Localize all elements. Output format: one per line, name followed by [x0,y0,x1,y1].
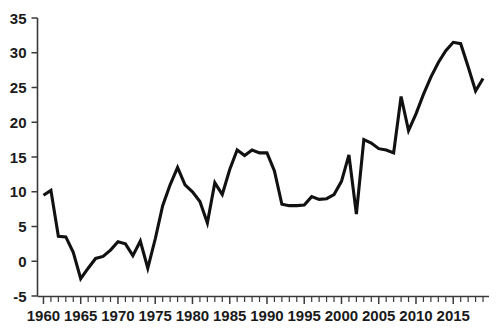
y-tick-label--5: -5 [13,288,26,305]
y-tick-label-0: 0 [18,253,26,270]
y-tick-label-30: 30 [10,44,27,61]
y-tick-label-15: 15 [10,149,27,166]
x-tick-label-1980: 1980 [176,307,209,324]
chart-svg: -505101520253035 19601965197019751980198… [0,0,496,329]
y-tick-label-35: 35 [10,10,27,27]
y-tick-label-25: 25 [10,79,27,96]
x-tick-label-1985: 1985 [213,307,246,324]
x-tick-label-1960: 1960 [27,307,60,324]
y-tick-label-20: 20 [10,114,27,131]
y-tick-label-10: 10 [10,183,27,200]
x-tick-label-1965: 1965 [64,307,97,324]
x-tick-label-2000: 2000 [325,307,358,324]
x-tick-label-2005: 2005 [362,307,395,324]
y-tick-label-5: 5 [18,218,26,235]
x-tick-label-1975: 1975 [139,307,172,324]
x-tick-label-1990: 1990 [250,307,283,324]
chart-background [0,0,496,329]
x-tick-label-1995: 1995 [288,307,321,324]
x-tick-label-2015: 2015 [437,307,470,324]
x-tick-label-2010: 2010 [399,307,432,324]
x-tick-label-1970: 1970 [101,307,134,324]
line-chart-figure: -505101520253035 19601965197019751980198… [0,0,496,329]
